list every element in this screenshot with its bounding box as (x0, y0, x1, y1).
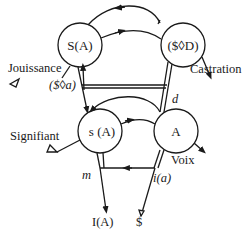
label-signifiant: Signifiant (10, 130, 59, 143)
label-fantasy: ($◊a) (49, 79, 76, 92)
label-image: i(a) (153, 172, 171, 185)
signifiant-tail-triangle (47, 145, 57, 152)
node-label-A: A (171, 125, 180, 138)
edge-voix-exit (194, 143, 203, 151)
edge-upper-vector (101, 31, 161, 39)
label-castration: Castration (190, 63, 241, 76)
graph-of-desire (0, 0, 249, 233)
edge-SD-down-a (160, 62, 168, 112)
node-label-SA: S(A) (67, 39, 92, 52)
edge-ego-ideal (100, 168, 106, 210)
label-ego-ideal: I(A) (92, 216, 114, 229)
label-ego: m (82, 169, 91, 182)
node-label-SD: ($◊D) (168, 39, 199, 52)
label-subject: $ (136, 216, 142, 229)
label-desire: d (172, 93, 178, 106)
edge-sA-down-b (103, 153, 104, 168)
jouissance-tail-triangle (10, 79, 19, 87)
edge-jouissance-entry (62, 66, 70, 78)
edge-sA-down-a (97, 153, 100, 168)
label-jouissance: Jouissance (8, 62, 61, 75)
node-label-sA: s (A) (89, 125, 115, 138)
edge-upper-arc (88, 6, 160, 25)
label-voix: Voix (171, 154, 194, 167)
edge-signifiant-entry (57, 140, 80, 152)
edge-SA-down-right (83, 67, 84, 90)
